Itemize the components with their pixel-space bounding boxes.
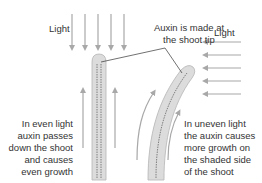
caption-line: even growth xyxy=(0,166,73,178)
callout-lines xyxy=(101,48,182,73)
caption-line: In uneven light xyxy=(184,118,255,130)
auxin-tip-line2: the shoot tip xyxy=(129,34,249,46)
caption-line: the auxin causes xyxy=(184,130,255,142)
auxin-tip-line1: Auxin is made at xyxy=(129,22,249,34)
auxin-tip-label: Auxin is made at the shoot tip xyxy=(129,22,249,46)
caption-line: In even light xyxy=(0,118,73,130)
light-arrows-horizontal xyxy=(205,42,241,94)
caption-line: auxin passes xyxy=(0,130,73,142)
light-label-left: Light xyxy=(49,23,70,35)
light-arrows-vertical xyxy=(72,14,124,48)
caption-line: and causes xyxy=(0,154,73,166)
caption-line: of the shoot xyxy=(184,166,255,178)
even-light-caption: In even light auxin passes down the shoo… xyxy=(0,118,73,178)
uneven-light-caption: In uneven light the auxin causes more gr… xyxy=(184,118,255,178)
straight-shoot xyxy=(92,54,106,180)
caption-line: more growth on xyxy=(184,142,255,154)
caption-line: the shaded side xyxy=(184,154,255,166)
caption-line: down the shoot xyxy=(0,142,73,154)
